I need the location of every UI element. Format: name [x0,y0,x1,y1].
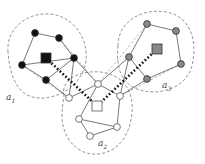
edge-a2 [79,119,117,127]
edge-a2 [90,127,117,136]
node-a1 [43,77,50,84]
edge-a2 [69,84,98,98]
node-a2 [95,81,102,88]
cluster-label-a2: a2 [98,138,107,150]
node-a1 [56,35,63,42]
node-a2 [87,133,94,140]
node-a1 [19,62,26,69]
center-square-a3 [152,44,162,54]
inter-cluster-edge [69,58,74,98]
edge-a1 [22,65,46,80]
cluster-label-a3: a3 [162,80,171,92]
node-a3 [126,54,133,61]
node-a2 [66,95,73,102]
dashed-edge [98,24,147,84]
node-a3 [144,21,151,28]
node-a2 [117,93,124,100]
node-a1 [32,30,39,37]
node-a2 [76,116,83,123]
node-a3 [144,76,151,83]
center-square-a1 [41,53,51,63]
edge-a3 [176,31,181,64]
cluster-label-a1: a1 [6,92,15,104]
edge-a1 [22,33,35,65]
edge-a3 [147,64,181,79]
edge-a3 [129,24,147,57]
inter-cluster-edge [120,57,129,96]
node-a3 [173,28,180,35]
node-a3 [178,61,185,68]
node-a2 [114,124,121,131]
edge-a3 [147,24,176,31]
edge-a2 [117,96,120,127]
clustered-graph-diagram: a1 a2 a3 [0,0,205,164]
node-a1 [71,55,78,62]
center-square-a2 [92,101,102,111]
